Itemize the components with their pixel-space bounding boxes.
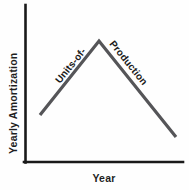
y-axis-title: Yearly Amortization xyxy=(7,53,19,154)
x-axis-title: Year xyxy=(93,172,116,184)
amortization-line-chart: Yearly Amortization Year Units-of- Produ… xyxy=(0,0,189,190)
chart-container: Yearly Amortization Year Units-of- Produ… xyxy=(0,0,189,190)
